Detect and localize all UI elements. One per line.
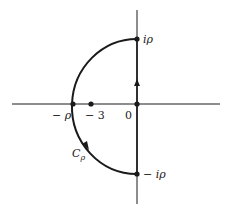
label-neg-i-rho: − iρ bbox=[143, 168, 166, 181]
arrow-up-icon bbox=[134, 79, 140, 86]
label-i-rho: iρ bbox=[143, 33, 154, 46]
point-i-rho bbox=[134, 36, 139, 41]
point-neg-3 bbox=[88, 101, 93, 106]
label-contour-sub: ρ bbox=[79, 153, 85, 162]
label-origin: 0 bbox=[125, 109, 132, 122]
label-neg-3: − 3 bbox=[85, 109, 105, 122]
point-origin bbox=[134, 101, 139, 106]
label-contour: Cρ bbox=[72, 147, 85, 162]
point-neg-i-rho bbox=[134, 171, 139, 176]
label-neg-rho: − ρ bbox=[52, 109, 72, 122]
contour-diagram: iρ − iρ − ρ − 3 0 Cρ bbox=[0, 0, 228, 214]
point-neg-rho bbox=[70, 101, 75, 106]
